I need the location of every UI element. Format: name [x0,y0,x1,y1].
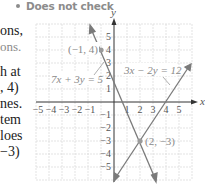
y-axis-arrow-icon [112,18,117,25]
point-label-2-neg3: (2, −3) [145,135,175,148]
arrowhead-icon [90,25,96,34]
line-3x-2y-12 [114,64,191,181]
line-label-7x-3y-5: 7x + 3y = 5 [51,73,104,85]
y-tick: −3 [100,135,111,146]
y-tick: −1 [100,109,111,120]
axes [36,22,194,182]
x-tick: 4 [164,104,169,115]
y-tick: 5 [106,31,111,42]
point-label-neg1-4: (−1, 4) [68,43,98,56]
x-tick: 3 [151,104,156,115]
y-tick: 2 [106,70,111,81]
y-axis-label: y [110,6,116,18]
x-axis-arrow-icon [191,100,198,105]
arrowhead-icon [185,64,191,71]
x-tick: 5 [177,104,182,115]
line-label-3x-2y-12: 3x − 2y = 12 [123,64,182,76]
coordinate-graph: x y −5 −4 −3 −2 −1 1 2 3 4 5 1 2 3 4 5 −… [0,0,205,190]
leader-line [163,77,170,85]
x-tick: −5 [33,104,44,115]
y-tick: 1 [106,83,111,94]
y-tick: −4 [100,148,111,159]
y-tick: −5 [100,161,111,172]
x-axis-label: x [199,95,205,107]
y-tick: 4 [106,44,111,55]
point-neg1-4 [98,47,103,52]
y-tick: −2 [100,122,111,133]
point-2-neg3 [137,138,142,143]
x-tick: 2 [138,104,143,115]
x-tick: −2 [72,104,83,115]
x-tick: −1 [85,104,96,115]
x-tick: −3 [59,104,70,115]
arrowhead-icon [152,173,158,182]
x-tick: −4 [46,104,57,115]
